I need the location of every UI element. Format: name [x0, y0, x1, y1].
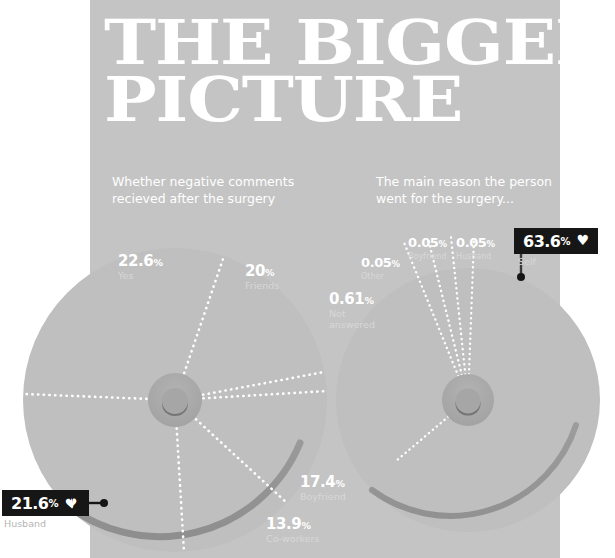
percent-sign: % — [335, 478, 345, 489]
husband-leader-dot — [100, 499, 108, 507]
badge-value-self: 63.6 — [523, 232, 560, 251]
slice-name-not-answered: Not answered — [329, 309, 375, 331]
slice-value-boyfriend-left: 17.4 — [300, 473, 335, 491]
slice-label-not-answered: 0.61% Not answered — [329, 290, 375, 330]
slice-value-other: 0.05 — [361, 255, 391, 270]
badge-caption-self: Self — [518, 256, 536, 267]
slice-label-yes: 22.6% Yes — [118, 252, 163, 282]
slice-value-friends: 20 — [245, 262, 265, 280]
left-pie-hub-inner — [162, 388, 188, 414]
title-line-1: THE BIGGER — [104, 16, 606, 69]
percent-sign: % — [364, 295, 374, 306]
percent-sign: % — [560, 236, 570, 247]
slice-label-boyfriend-right: 0.05% Boyfriend — [408, 233, 447, 261]
slice-value-husband-right: 0.05 — [456, 235, 486, 250]
percent-sign: % — [301, 520, 311, 531]
percent-sign: % — [438, 239, 447, 249]
broken-heart-icon: ♥♥ — [65, 497, 80, 511]
slice-name-friends: Friends — [245, 281, 279, 292]
right-pie-hub-inner — [456, 389, 481, 414]
infographic-canvas: THE BIGGER PICTURE Whether negative comm… — [0, 0, 615, 558]
slice-name-boyfriend-right: Boyfriend — [408, 252, 447, 261]
slice-name-coworkers: Co-workers — [266, 534, 319, 545]
slice-label-boyfriend-left: 17.4% Boyfriend — [300, 473, 346, 503]
right-section-intro: The main reason the person went for the … — [376, 174, 576, 207]
page-title: THE BIGGER PICTURE — [104, 16, 548, 127]
left-section-intro: Whether negative comments recieved after… — [112, 174, 327, 207]
slice-name-boyfriend-left: Boyfriend — [300, 492, 346, 503]
highlight-badge-self[interactable]: 63.6% ♥ — [514, 228, 598, 254]
slice-label-coworkers: 13.9% Co-workers — [266, 515, 319, 545]
self-leader-dot — [517, 273, 525, 281]
slice-name-yes: Yes — [118, 271, 163, 282]
heart-icon: ♥ — [577, 233, 590, 247]
slice-value-yes: 22.6 — [118, 252, 153, 270]
slice-name-husband-right: Husband — [456, 252, 495, 261]
right-pie-chart — [336, 237, 600, 532]
percent-sign: % — [486, 239, 495, 249]
slice-label-other: 0.05% Other — [361, 253, 400, 281]
badge-value-husband: 21.6 — [11, 494, 48, 513]
slice-name-other: Other — [361, 272, 400, 281]
slice-value-coworkers: 13.9 — [266, 515, 301, 533]
title-line-2: PICTURE — [104, 73, 606, 126]
percent-sign: % — [265, 267, 275, 278]
slice-value-boyfriend-right: 0.05 — [408, 235, 438, 250]
percent-sign: % — [48, 498, 58, 509]
slice-label-friends: 20% Friends — [245, 262, 279, 292]
slice-value-not-answered: 0.61 — [329, 290, 364, 308]
badge-caption-husband: Husband — [4, 518, 46, 529]
percent-sign: % — [153, 257, 163, 268]
highlight-badge-husband[interactable]: 21.6% ♥♥ — [2, 490, 89, 516]
slice-label-husband-right: 0.05% Husband — [456, 233, 495, 261]
percent-sign: % — [391, 259, 400, 269]
